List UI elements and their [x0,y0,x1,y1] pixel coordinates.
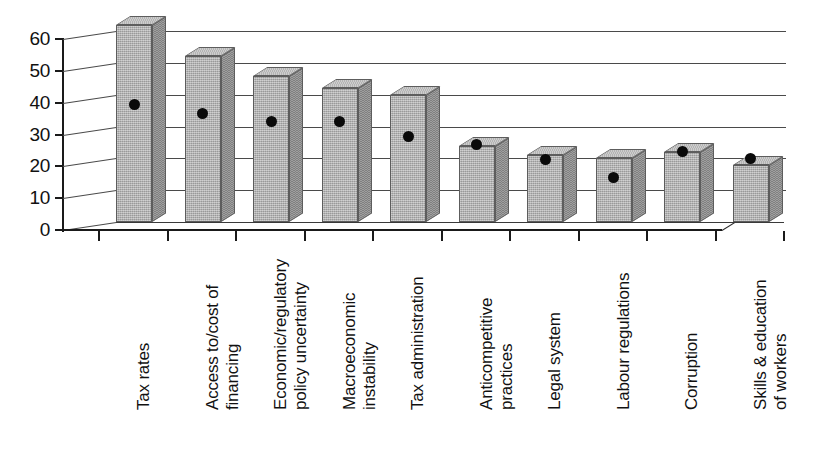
category-label-6: Legal system [545,312,565,410]
category-label-line: Economic/regulatory [271,259,290,410]
category-label-7: Labour regulations [614,273,634,410]
bar-front-face [116,25,152,222]
y-tick-label-20: 20 [8,156,50,175]
data-point-marker [266,116,277,127]
floor-back-edge [116,222,784,223]
category-label-line: Anticompetitive [477,298,496,410]
bar [390,85,426,222]
category-label-2: Economic/regulatorypolicy uncertainty [271,259,311,410]
bar-side-face [221,48,235,222]
gridline-riser-10 [63,190,116,199]
data-point-marker [403,131,414,142]
x-tick-mark-1 [167,231,169,241]
category-label-line: Corruption [682,333,701,410]
y-tick-label-0: 0 [8,220,50,239]
bar [185,46,221,222]
x-tick-mark-0 [98,231,100,241]
bar [733,155,769,222]
category-label-line: Access to/cost of [203,285,222,410]
category-label-line: Tax rates [134,343,153,410]
bar [322,78,358,222]
category-label-line: of workers [771,279,791,410]
category-label-line: Legal system [545,312,564,410]
category-label-line: Tax administration [408,277,427,410]
bar-front-face [185,56,221,222]
category-label-4: Tax administration [408,277,428,410]
category-label-0: Tax rates [134,343,154,410]
x-tick-mark-7 [578,231,580,241]
gridline-riser-30 [63,127,116,136]
bar-side-face [289,67,303,222]
data-point-marker [745,153,756,164]
category-label-9: Skills & educationof workers [751,279,791,410]
bar-side-face [152,16,166,222]
bar-chart: 0102030405060 Tax ratesAccess to/cost of… [0,0,817,457]
x-tick-mark-3 [304,231,306,241]
x-tick-mark-9 [715,231,717,241]
data-point-marker [540,154,551,165]
data-point-marker [677,146,688,157]
x-tick-mark-8 [646,231,648,241]
gridline-riser-50 [63,63,116,72]
data-point-marker [608,172,619,183]
bar-front-face [733,165,769,222]
bar [253,66,289,222]
category-label-8: Corruption [682,333,702,410]
category-label-line: policy uncertainty [291,259,311,410]
x-tick-mark-6 [509,231,511,241]
bar-front-face [253,76,289,222]
bar [596,148,632,222]
category-label-line: Labour regulations [614,273,633,410]
gridline-60 [116,31,786,32]
bar-front-face [664,152,700,222]
bar [116,15,152,222]
data-point-marker [471,139,482,150]
gridline-riser-60 [63,31,116,40]
gridline-riser-20 [63,158,116,167]
category-label-line: instability [360,293,380,410]
category-label-line: practices [497,298,517,410]
category-label-line: Skills & education [751,279,770,410]
bar-side-face [495,137,509,222]
category-label-3: Macroeconomicinstability [340,293,380,410]
category-label-line: Macroeconomic [340,293,359,410]
y-tick-label-40: 40 [8,93,50,112]
bar-side-face [563,146,577,222]
y-tick-label-10: 10 [8,188,50,207]
bar-side-face [358,80,372,222]
bar-side-face [700,143,714,222]
x-tick-mark-4 [372,231,374,241]
y-tick-label-50: 50 [8,61,50,80]
y-tick-label-30: 30 [8,125,50,144]
bar-side-face [426,86,440,222]
category-label-1: Access to/cost offinancing [203,285,243,410]
bar-side-face [632,150,646,222]
bar-side-face [769,156,783,222]
bar-front-face [322,88,358,222]
bar-front-face [390,95,426,222]
gridline-riser-40 [63,95,116,104]
y-tick-label-60: 60 [8,29,50,48]
category-label-line: financing [223,285,243,410]
x-tick-mark-5 [441,231,443,241]
bar-front-face [459,146,495,222]
data-point-marker [129,99,140,110]
x-axis-line [62,229,722,231]
x-tick-mark-10 [783,231,785,241]
category-label-5: Anticompetitivepractices [477,298,517,410]
bar-front-face [596,158,632,222]
bar-front-face [527,155,563,222]
x-tick-mark-2 [235,231,237,241]
